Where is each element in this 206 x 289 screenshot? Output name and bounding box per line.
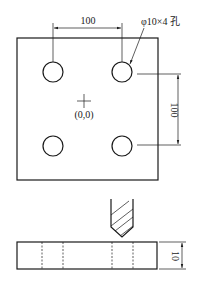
drill-bit-icon [111,199,133,237]
side-view: 10 [17,242,186,269]
hole-callout: φ10×4 孔 [130,16,180,64]
hole-top-right [112,62,132,82]
plate-side-outline [17,242,157,269]
origin-label: (0,0) [74,109,93,121]
top-view: (0,0) 100 φ10×4 孔 100 [17,15,181,180]
vertical-dimension-value: 100 [169,103,180,118]
hole-bottom-left [43,136,63,156]
hole-top-left [43,62,63,82]
vertical-dimension: 100 [137,74,181,145]
hole-callout-text: φ10×4 孔 [141,16,180,27]
technical-drawing: (0,0) 100 φ10×4 孔 100 [0,0,206,289]
hole-bottom-right [112,136,132,156]
origin-cross-icon [77,94,91,108]
thickness-dimension: 10 [159,242,186,269]
horizontal-dimension-value: 100 [81,15,96,26]
thickness-dimension-value: 10 [170,251,181,261]
